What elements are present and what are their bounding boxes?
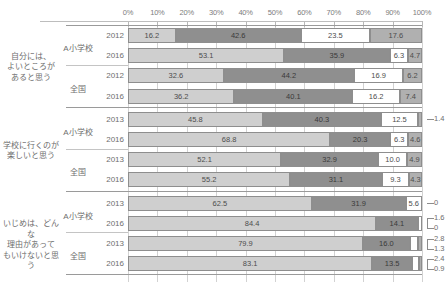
segment-annotation: 1.4 — [434, 115, 444, 123]
subgroup-label: 全国 — [58, 250, 98, 261]
bar-segment: 13.5 — [372, 256, 412, 271]
bar-segment: 44.2 — [224, 68, 354, 83]
bar-segment: 68.8 — [128, 132, 330, 147]
question-label-line: もいけないと思う — [0, 251, 62, 272]
x-axis-tick-label: 90% — [379, 8, 407, 17]
row-year-label: 2016 — [98, 256, 124, 271]
bar-segment: 40.3 — [263, 112, 381, 127]
x-axis-tick-label: 60% — [290, 8, 318, 17]
bar-segment — [419, 256, 422, 271]
annotation-leader-line — [427, 269, 434, 270]
x-axis-tick-label: 40% — [232, 8, 260, 17]
x-axis-tick-label: 50% — [261, 8, 289, 17]
bar-segment: 4.9 — [407, 152, 421, 167]
bar-segment: 83.1 — [128, 256, 372, 271]
x-axis-tick-label: 80% — [349, 8, 377, 17]
annotation-leader-line — [427, 203, 434, 204]
row-year-label: 2016 — [98, 89, 124, 104]
bar-segment: 52.1 — [128, 152, 281, 167]
stacked-bar-chart: 0%10%20%30%40%50%60%70%80%90%100%201216.… — [0, 0, 448, 286]
row-year-label: 2012 — [98, 68, 124, 83]
bar-segment: 5.6 — [406, 196, 422, 211]
x-axis-tick-label: 30% — [202, 8, 230, 17]
bar-segment: 17.6 — [370, 28, 422, 43]
bar-segment: 16.2 — [128, 28, 176, 43]
row-year-label: 2016 — [98, 172, 124, 187]
group-separator — [66, 191, 422, 192]
group-separator — [66, 107, 422, 108]
question-label-line: 学校に行くのが — [0, 141, 62, 152]
annotation-leader-line — [427, 259, 428, 269]
bar-segment: 42.6 — [176, 28, 301, 43]
row-year-label: 2013 — [98, 196, 124, 211]
bar-segment: 6.2 — [403, 68, 421, 83]
question-label-line: いじめは、どんな — [0, 219, 62, 240]
bar-segment: 4.7 — [408, 48, 422, 63]
bar-segment — [412, 256, 419, 271]
row-year-label: 2016 — [98, 132, 124, 147]
x-axis-tick-label: 20% — [173, 8, 201, 17]
bar-segment: 12.5 — [381, 112, 418, 127]
bar-segment: 79.9 — [128, 236, 363, 251]
bar-segment: 16.2 — [352, 89, 400, 104]
bar-segment: 4.6 — [408, 132, 422, 147]
segment-annotation: 1.6 — [434, 214, 444, 222]
grid-line — [422, 27, 423, 282]
bar-segment: 55.2 — [128, 172, 290, 187]
row-year-label: 2012 — [98, 28, 124, 43]
segment-annotation: 0.9 — [434, 265, 444, 273]
annotation-leader-line — [427, 259, 434, 260]
question-label: 学校に行くのが楽しいと思う — [0, 141, 62, 162]
bar-segment — [410, 236, 418, 251]
bar-segment: 31.9 — [312, 196, 406, 211]
annotation-leader-line — [427, 239, 428, 249]
group-separator — [66, 274, 422, 275]
x-axis-tick-label: 70% — [320, 8, 348, 17]
segment-annotation: 1.3 — [434, 245, 444, 253]
bar-segment: 14.1 — [376, 216, 417, 231]
subgroup-label: A小学校 — [58, 42, 98, 53]
bar-segment: 23.5 — [301, 28, 370, 43]
bar-segment: 36.2 — [128, 89, 234, 104]
bar-segment: 7.4 — [400, 89, 422, 104]
row-year-label: 2016 — [98, 48, 124, 63]
bar-segment — [418, 112, 422, 127]
x-axis-tick-label: 0% — [114, 8, 142, 17]
annotation-leader-line — [427, 218, 428, 228]
bar-segment: 6.3 — [390, 48, 409, 63]
question-label-line: 楽しいと思う — [0, 151, 62, 162]
bar-segment — [418, 216, 423, 231]
bar-segment: 10.0 — [378, 152, 407, 167]
bar-segment: 6.3 — [390, 132, 409, 147]
bar-segment: 45.8 — [128, 112, 263, 127]
annotation-leader-line — [427, 218, 434, 219]
annotation-leader-line — [427, 228, 434, 229]
annotation-leader-line — [427, 249, 434, 250]
annotation-leader-line — [427, 119, 434, 120]
bar-segment: 62.5 — [128, 196, 312, 211]
bar-segment: 16.9 — [354, 68, 404, 83]
annotation-leader-line — [427, 239, 434, 240]
subgroup-label: 全国 — [58, 166, 98, 177]
bar-segment: 16.0 — [363, 236, 410, 251]
row-year-label: 2013 — [98, 236, 124, 251]
segment-annotation: 2.4 — [434, 255, 444, 263]
row-year-label: 2013 — [98, 152, 124, 167]
bar-segment: 9.3 — [382, 172, 409, 187]
bar-segment: 35.9 — [284, 48, 390, 63]
subgroup-label: A小学校 — [58, 126, 98, 137]
question-label-line: あると思う — [0, 73, 62, 84]
subgroup-separator — [66, 232, 128, 233]
bar-segment: 31.1 — [290, 172, 381, 187]
question-label-line: 自分には、 — [0, 52, 62, 63]
x-axis-tick-label: 10% — [143, 8, 171, 17]
bar-segment: 20.3 — [330, 132, 390, 147]
segment-annotation: 0 — [434, 199, 438, 207]
question-label: いじめは、どんな理由があってもいけないと思う — [0, 219, 62, 272]
x-axis-line — [40, 21, 422, 22]
bar-segment: 32.9 — [281, 152, 378, 167]
subgroup-separator — [66, 149, 128, 150]
question-label: 自分には、よいところがあると思う — [0, 52, 62, 84]
x-axis-tick-label: 100% — [408, 8, 436, 17]
segment-annotation: 2.8 — [434, 235, 444, 243]
